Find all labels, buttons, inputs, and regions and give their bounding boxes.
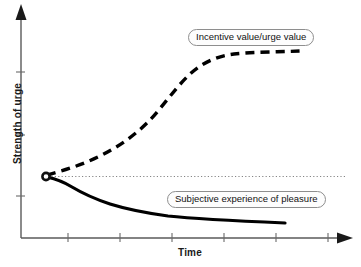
chart-figure: Strength of urge Time Incentive value/ur… — [0, 0, 361, 267]
y-axis-title: Strength of urge — [12, 69, 23, 179]
incentive-value-label: Incentive value/urge value — [188, 29, 314, 46]
x-axis-arrow-icon — [337, 233, 353, 244]
y-axis-arrow-icon — [16, 4, 27, 20]
origin-start-marker — [42, 173, 49, 180]
x-axis-title: Time — [140, 247, 240, 258]
subjective-pleasure-label: Subjective experience of pleasure — [167, 191, 326, 208]
series-line-incentive-value — [47, 51, 300, 175]
